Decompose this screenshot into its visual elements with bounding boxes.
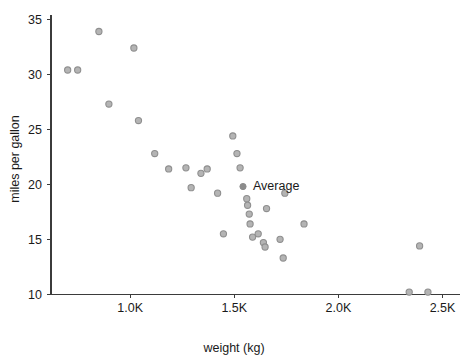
scatter-plot-figure: 101520253035 1.0K1.5K2.0K2.5K Average we…: [0, 0, 468, 363]
data-point: [246, 211, 252, 217]
data-point: [244, 202, 250, 208]
data-point: [262, 244, 268, 250]
data-point: [425, 289, 431, 295]
data-point: [65, 67, 71, 73]
data-point: [152, 150, 158, 156]
data-point: [417, 243, 423, 249]
annotation-label: Average: [253, 179, 299, 193]
x-tick-label: 1.5K: [221, 301, 247, 315]
data-point: [301, 221, 307, 227]
data-point: [106, 101, 112, 107]
data-point: [220, 231, 226, 237]
y-tick-label: 25: [28, 123, 42, 137]
y-tick-label: 15: [28, 233, 42, 247]
axes: [51, 15, 460, 294]
data-point: [247, 221, 253, 227]
y-axis-label: miles per gallon: [8, 115, 22, 203]
data-point: [255, 231, 261, 237]
plot-canvas: 101520253035 1.0K1.5K2.0K2.5K Average we…: [0, 0, 468, 363]
y-tick-label: 20: [28, 178, 42, 192]
x-axis-label: weight (kg): [202, 341, 264, 355]
data-point: [244, 196, 250, 202]
data-point: [188, 185, 194, 191]
y-tick-label: 10: [28, 288, 42, 302]
data-point: [230, 133, 236, 139]
data-point: [96, 28, 102, 34]
data-point: [215, 190, 221, 196]
data-point: [183, 165, 189, 171]
x-tick-label: 1.0K: [117, 301, 143, 315]
data-point: [280, 255, 286, 261]
y-tick-label: 30: [28, 68, 42, 82]
x-tick-label: 2.0K: [326, 301, 352, 315]
data-point-average: [240, 183, 246, 189]
x-axis-ticks: 1.0K1.5K2.0K2.5K: [117, 294, 456, 315]
data-point: [234, 150, 240, 156]
data-point: [198, 170, 204, 176]
x-tick-label: 2.5K: [430, 301, 456, 315]
data-point: [237, 165, 243, 171]
data-point: [406, 289, 412, 295]
annotations: Average: [253, 179, 299, 193]
data-points: [65, 28, 431, 295]
y-axis-ticks: 101520253035: [28, 13, 51, 302]
data-point: [204, 166, 210, 172]
data-point: [166, 166, 172, 172]
y-tick-label: 35: [28, 13, 42, 27]
data-point: [75, 67, 81, 73]
data-point: [135, 117, 141, 123]
data-point: [263, 205, 269, 211]
data-point: [131, 45, 137, 51]
data-point: [277, 236, 283, 242]
